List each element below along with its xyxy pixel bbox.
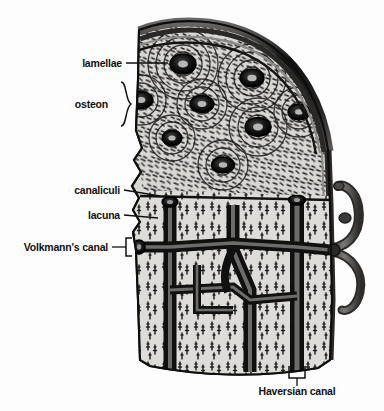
label-volkmanns-canal: Volkmann's canal bbox=[0, 242, 108, 253]
bracket-volkmanns bbox=[126, 238, 132, 256]
bone-diagram-figure: lamellae osteon canaliculi lacuna Volkma… bbox=[0, 0, 384, 411]
label-canaliculi: canaliculi bbox=[22, 185, 120, 196]
label-haversian-canal: Haversian canal bbox=[242, 386, 352, 397]
label-osteon: osteon bbox=[28, 99, 108, 110]
label-lamellae: lamellae bbox=[30, 58, 122, 69]
label-lacuna: lacuna bbox=[30, 210, 120, 221]
brace-osteon bbox=[121, 82, 131, 126]
